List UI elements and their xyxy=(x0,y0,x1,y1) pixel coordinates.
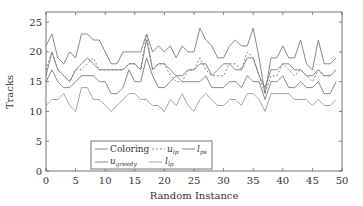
series-line-l-ps xyxy=(46,40,336,88)
y-tick-label: 5 xyxy=(36,136,42,147)
y-tick-label: 25 xyxy=(29,17,42,28)
y-tick-label: 20 xyxy=(29,46,42,57)
x-tick-label: 35 xyxy=(247,175,260,186)
series-line-u-greedy xyxy=(46,58,336,100)
y-axis-label: Tracks xyxy=(4,75,15,109)
x-axis-label: Random Instance xyxy=(150,190,239,201)
series-line-l-lp xyxy=(46,88,336,112)
legend: Coloring ulp lps ugreedy llp xyxy=(91,141,212,169)
x-tick-label: 25 xyxy=(188,175,201,186)
x-tick-label: 45 xyxy=(306,175,319,186)
series-line-coloring xyxy=(46,28,336,94)
x-tick-label: 50 xyxy=(336,175,349,186)
x-tick-label: 20 xyxy=(158,175,171,186)
x-tick-label: 5 xyxy=(72,175,78,186)
series-line-u-lp xyxy=(46,34,336,94)
x-tick-label: 10 xyxy=(99,175,112,186)
y-tick-label: 15 xyxy=(29,76,42,87)
x-tick-label: 30 xyxy=(217,175,230,186)
line-chart: 051015202530354045500510152025 Random In… xyxy=(0,0,363,206)
y-tick-label: 10 xyxy=(29,106,42,117)
legend-label-coloring: Coloring xyxy=(110,144,150,154)
x-tick-label: 15 xyxy=(128,175,141,186)
y-tick-label: 0 xyxy=(36,166,42,177)
x-tick-label: 40 xyxy=(276,175,289,186)
series-layer xyxy=(46,28,336,111)
x-tick-label: 0 xyxy=(43,175,49,186)
